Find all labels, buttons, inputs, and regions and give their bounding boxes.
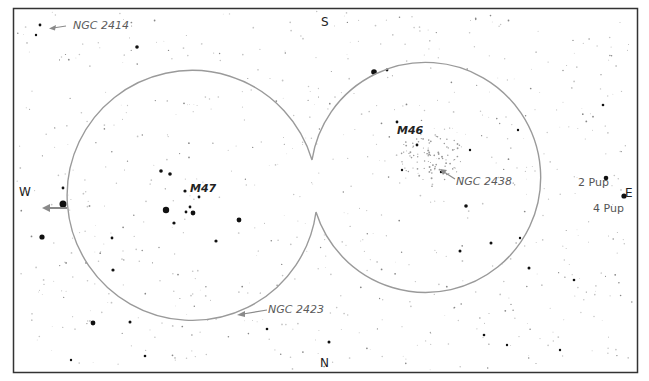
faint-star [122,226,124,228]
faint-star [576,66,578,68]
faint-star [453,111,455,113]
faint-star [84,179,86,181]
faint-star [296,236,297,237]
cluster-star [416,138,418,140]
faint-star [430,369,431,370]
faint-star [192,270,194,272]
faint-star [69,209,70,210]
faint-star [228,336,230,338]
faint-star [290,356,292,358]
faint-star [592,116,594,118]
faint-star [126,112,127,113]
faint-star [99,47,100,48]
faint-star [302,141,304,143]
faint-star [486,137,487,138]
faint-star [505,116,507,118]
faint-star [610,295,611,296]
faint-star [284,215,285,216]
star [129,321,132,324]
faint-star [362,239,363,240]
faint-star [462,260,464,262]
faint-star [559,127,560,128]
faint-star [116,182,117,183]
faint-star [405,363,407,365]
faint-star [401,326,402,327]
faint-star [349,357,351,359]
faint-star [176,114,177,115]
faint-star [388,176,390,178]
cluster-star [452,168,454,170]
faint-star [434,250,435,251]
faint-star [415,281,416,282]
faint-star [37,340,38,341]
faint-star [438,57,439,58]
faint-star [79,232,80,233]
faint-star [145,200,147,202]
faint-star [574,53,575,54]
faint-star [616,355,617,356]
faint-star [489,55,490,56]
faint-star [293,194,294,195]
faint-star [539,338,540,339]
compass-east: E [625,186,633,200]
faint-star [74,329,75,330]
faint-star [188,157,190,159]
faint-star [514,317,515,318]
faint-star [398,220,400,222]
faint-star [507,138,508,139]
faint-star [344,212,345,213]
cluster-star [456,171,457,172]
cluster-star [408,171,409,172]
faint-star [274,349,275,350]
faint-star [131,22,133,24]
faint-star [51,350,52,351]
faint-star [20,210,22,212]
star [144,355,147,358]
faint-star [194,305,196,307]
faint-star [373,134,374,135]
faint-star [81,112,83,114]
faint-star [192,293,193,294]
faint-star [592,130,593,131]
cluster-star [424,168,425,169]
faint-star [507,79,508,80]
faint-star [334,96,336,98]
faint-star [615,349,617,351]
faint-star [283,137,284,138]
faint-star [242,54,244,56]
faint-star [247,292,248,293]
faint-star [488,117,489,118]
faint-star [381,269,383,271]
faint-star [257,69,258,70]
faint-star [347,314,349,316]
star [111,237,114,240]
faint-star [107,302,108,303]
faint-star [386,20,387,21]
faint-star [123,284,124,285]
faint-star [181,326,183,328]
faint-star [72,238,73,239]
faint-star [190,295,192,297]
star [39,234,44,239]
faint-star [283,98,284,99]
faint-star [280,353,282,355]
faint-star [605,153,606,154]
faint-star [613,175,615,177]
faint-star [583,299,584,300]
cluster-star [417,161,418,162]
faint-star [314,104,315,105]
faint-star [428,48,429,49]
faint-star [346,245,347,246]
faint-star [594,294,596,296]
faint-star [154,20,156,22]
faint-star [504,58,505,59]
star [70,359,72,361]
faint-star [38,336,40,338]
faint-star [247,78,248,79]
faint-star [223,14,224,15]
faint-star [348,78,350,80]
faint-star [123,259,124,260]
faint-star [105,92,106,93]
faint-star [242,106,243,107]
star [483,334,486,337]
